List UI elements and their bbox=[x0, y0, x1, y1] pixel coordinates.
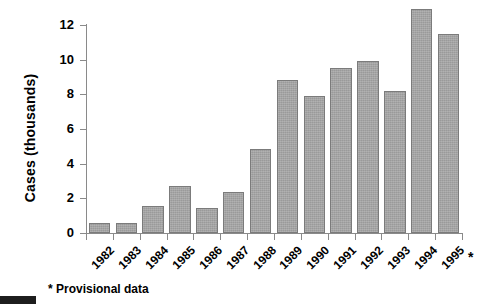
bar-1994 bbox=[411, 9, 432, 233]
x-axis-tick bbox=[167, 234, 168, 240]
x-axis-tick bbox=[247, 234, 248, 240]
bar-1984 bbox=[142, 206, 163, 233]
x-axis-tick bbox=[140, 234, 141, 240]
bar-1992 bbox=[357, 61, 378, 233]
y-axis-tick-label: 10 bbox=[40, 53, 74, 66]
y-axis-tick-label: 12 bbox=[40, 18, 74, 31]
x-axis-tick bbox=[462, 234, 463, 240]
y-axis-tick-label: 8 bbox=[40, 87, 74, 100]
x-axis-tick bbox=[381, 234, 382, 240]
x-axis-tick bbox=[301, 234, 302, 240]
y-axis-tick-label: 6 bbox=[40, 122, 74, 135]
x-axis-tick bbox=[113, 234, 114, 240]
bar-chart-figure: Cases (thousands) 024681012 198219831984… bbox=[0, 0, 486, 304]
x-axis-tick bbox=[86, 234, 87, 240]
plot-area bbox=[86, 25, 462, 233]
bar-1985 bbox=[169, 186, 190, 233]
footnote-provisional-data: * Provisional data bbox=[48, 282, 149, 296]
y-axis-tick-label: 2 bbox=[40, 191, 74, 204]
bar-1991 bbox=[330, 68, 351, 233]
provisional-asterisk-marker: * bbox=[468, 250, 473, 264]
y-axis-tick-label: 4 bbox=[40, 157, 74, 170]
bar-1990 bbox=[304, 96, 325, 233]
bar-1987 bbox=[223, 192, 244, 233]
page-edge-mark bbox=[0, 296, 36, 304]
bar-1993 bbox=[384, 91, 405, 233]
y-axis-title: Cases (thousands) bbox=[22, 48, 38, 228]
x-axis-tick bbox=[193, 234, 194, 240]
bar-1982 bbox=[89, 223, 110, 233]
y-axis-tick-label: 0 bbox=[40, 226, 74, 239]
x-axis-tick bbox=[355, 234, 356, 240]
bar-1986 bbox=[196, 208, 217, 233]
bar-1983 bbox=[116, 223, 137, 233]
x-axis-tick bbox=[408, 234, 409, 240]
x-axis-tick bbox=[435, 234, 436, 240]
x-axis-tick bbox=[274, 234, 275, 240]
bar-1988 bbox=[250, 149, 271, 233]
bar-1989 bbox=[277, 80, 298, 233]
bar-1995 bbox=[438, 34, 459, 233]
x-axis-tick bbox=[220, 234, 221, 240]
x-axis-tick bbox=[328, 234, 329, 240]
